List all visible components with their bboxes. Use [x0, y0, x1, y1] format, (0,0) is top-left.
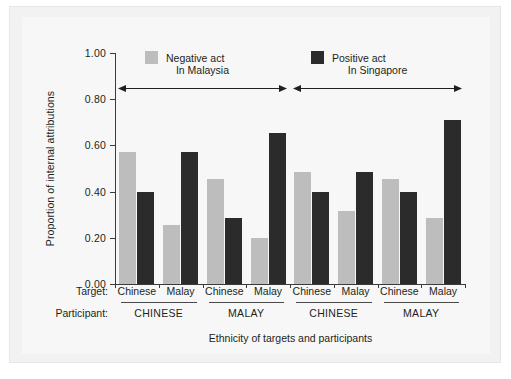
- y-axis-tick: [110, 99, 115, 100]
- plot-area: 0.000.200.400.600.801.00 Negative act Po…: [115, 53, 465, 284]
- participant-group-underline: [121, 302, 197, 303]
- legend-label-negative-act: Negative act: [166, 52, 224, 64]
- target-label: Malay: [421, 285, 465, 297]
- region-annotation-label: In Malaysia: [118, 64, 287, 76]
- row-label-participant: Participant:: [55, 307, 108, 319]
- x-axis-tick: [465, 284, 466, 288]
- y-axis-tick: [110, 238, 115, 239]
- y-axis-tick-label: 0.40: [85, 186, 106, 198]
- y-axis-tick-label: 1.00: [85, 47, 106, 59]
- bar-positive-act: [444, 120, 461, 284]
- legend-label-positive-act: Positive act: [332, 52, 386, 64]
- target-label: Chinese: [378, 285, 422, 297]
- y-axis-tick: [110, 192, 115, 193]
- region-annotation: In Malaysia: [118, 67, 287, 97]
- double-arrow-icon: [293, 84, 462, 93]
- legend-swatch-negative-act: [145, 51, 158, 64]
- y-axis-title: Proportion of internal attributions: [44, 53, 58, 284]
- target-label: Malay: [246, 285, 290, 297]
- bar-negative-act: [426, 218, 443, 284]
- bar-negative-act: [163, 225, 180, 284]
- y-axis-tick: [110, 53, 115, 54]
- bar-positive-act: [356, 172, 373, 284]
- participant-label: MALAY: [203, 307, 291, 319]
- bar-positive-act: [181, 152, 198, 284]
- bar-positive-act: [225, 218, 242, 284]
- participant-group-underline: [209, 302, 285, 303]
- y-axis-tick-label: 0.60: [85, 139, 106, 151]
- target-label: Malay: [334, 285, 378, 297]
- bar-negative-act: [251, 238, 268, 284]
- x-axis-title: Ethnicity of targets and participants: [115, 332, 466, 344]
- participant-group-underline: [296, 302, 372, 303]
- bar-negative-act: [338, 211, 355, 284]
- double-arrow-icon: [118, 84, 287, 93]
- bar-negative-act: [382, 179, 399, 284]
- legend-swatch-positive-act: [311, 51, 324, 64]
- target-label: Chinese: [203, 285, 247, 297]
- bar-positive-act: [400, 192, 417, 284]
- y-axis-tick: [110, 145, 115, 146]
- region-annotation: In Singapore: [293, 67, 462, 97]
- y-axis-tick-label: 0.20: [85, 232, 106, 244]
- participant-group-underline: [384, 302, 460, 303]
- legend-item-negative-act: Negative act: [145, 51, 224, 64]
- bar-negative-act: [207, 179, 224, 284]
- participant-label: CHINESE: [290, 307, 378, 319]
- target-label: Chinese: [115, 285, 159, 297]
- row-label-target: Target:: [76, 285, 108, 297]
- bar-positive-act: [269, 133, 286, 284]
- bar-positive-act: [312, 192, 329, 284]
- y-axis-tick-label: 0.80: [85, 93, 106, 105]
- target-label: Chinese: [290, 285, 334, 297]
- target-label: Malay: [159, 285, 203, 297]
- legend-item-positive-act: Positive act: [311, 51, 386, 64]
- bar-negative-act: [294, 172, 311, 284]
- participant-label: CHINESE: [115, 307, 203, 319]
- participant-label: MALAY: [378, 307, 466, 319]
- figure-panel: Proportion of internal attributions 0.00…: [9, 6, 501, 363]
- bar-negative-act: [119, 152, 136, 284]
- bar-positive-act: [137, 192, 154, 284]
- region-annotation-label: In Singapore: [293, 64, 462, 76]
